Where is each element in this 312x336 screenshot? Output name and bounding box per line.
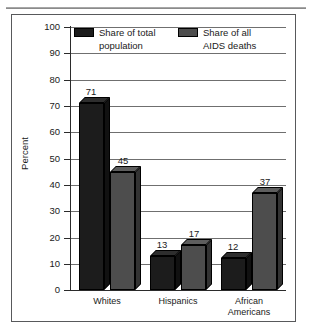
ytick-label-40: 40 [30,180,60,190]
bar-value-whites-share-of-total-population: 71 [78,87,104,97]
ytick-label-100: 100 [30,22,60,32]
ytick-label-80: 80 [30,75,60,85]
bar-side-face [206,239,212,290]
legend-swatch-share-of-total-population [74,28,94,37]
y-axis-line [70,26,71,291]
bar-hispanics-share-of-all-aids-deaths [181,245,206,290]
chart-plot-area: 100 90 80 70 60 50 40 30 20 10 0 Percent… [0,0,312,336]
legend-label-share-of-total-population-line2: population [99,40,143,51]
bar-front-face [181,245,206,290]
ytick-label-10: 10 [30,259,60,269]
ytick-label-60: 60 [30,127,60,137]
ytick-label-30: 30 [30,206,60,216]
bar-front-face [79,103,104,290]
chart-page: 100 90 80 70 60 50 40 30 20 10 0 Percent… [0,0,312,336]
bar-front-face [252,193,277,290]
legend-swatch-share-of-all-aids-deaths [178,28,198,37]
bar-whites-share-of-all-aids-deaths [110,172,135,290]
bar-whites-share-of-total-population [79,103,104,290]
bar-value-whites-share-of-all-aids-deaths: 45 [110,156,136,166]
bar-value-hispanics-share-of-all-aids-deaths: 17 [181,229,207,239]
ytick-label-90: 90 [30,48,60,58]
ytick-label-0: 0 [30,285,60,295]
bar-front-face [110,172,135,290]
y-axis-title: Percent [19,124,30,184]
bar-value-african-americans-share-of-total-population: 12 [220,242,246,252]
x-axis-line [70,290,286,291]
x-axis-label-african-americans-line1: African [204,296,294,307]
ytick-label-50: 50 [30,154,60,164]
x-axis-label-african-americans-line2: Americans [204,307,294,318]
bar-side-face [277,187,283,290]
bar-african-americans-share-of-total-population [221,258,246,290]
bar-front-face [150,256,175,290]
bar-value-african-americans-share-of-all-aids-deaths: 37 [252,177,278,187]
bar-hispanics-share-of-total-population [150,256,175,290]
ytick-label-70: 70 [30,101,60,111]
legend-label-share-of-all-aids-deaths-line2: AIDS deaths [203,40,256,51]
legend-label-share-of-all-aids-deaths-line1: Share of all [203,27,251,38]
bar-value-hispanics-share-of-total-population: 13 [149,240,175,250]
bar-side-face [135,166,141,290]
bar-african-americans-share-of-all-aids-deaths [252,193,277,290]
legend-label-share-of-total-population-line1: Share of total [99,27,156,38]
bar-front-face [221,258,246,290]
ytick-label-20: 20 [30,233,60,243]
gridline-80 [70,80,286,81]
chart-legend: Share of total population Share of all A… [74,27,284,57]
